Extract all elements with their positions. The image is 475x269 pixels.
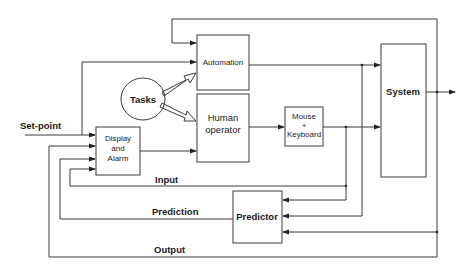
human-operator-block: Human operator xyxy=(197,94,249,162)
mouse-label: Mouse xyxy=(292,112,317,121)
keyboard-label: Keyboard xyxy=(287,130,321,139)
tasks-to-automation-arrow xyxy=(162,73,196,96)
plus-label: + xyxy=(302,121,307,130)
display-alarm-block: Display and Alarm xyxy=(96,127,140,175)
human-operator-label-2: operator xyxy=(205,124,240,135)
input-label: Input xyxy=(155,174,179,185)
automation-label: Automation xyxy=(203,58,243,67)
automation-block: Automation xyxy=(197,35,249,90)
prediction-feedback-line xyxy=(60,159,233,219)
tasks-to-operator-arrow xyxy=(160,103,196,121)
human-operator-label-1: Human xyxy=(208,112,239,123)
output-label: Output xyxy=(154,244,186,255)
mouse-keyboard-block: Mouse + Keyboard xyxy=(285,107,323,146)
control-loop-diagram: Automation Human operator Mouse + Keyboa… xyxy=(0,0,475,269)
system-label: System xyxy=(386,86,420,97)
and-label: and xyxy=(111,144,124,153)
display-label: Display xyxy=(105,134,131,143)
tasks-label: Tasks xyxy=(130,94,156,105)
prediction-label: Prediction xyxy=(152,206,199,217)
predictor-block: Predictor xyxy=(233,191,282,243)
tasks-node: Tasks xyxy=(121,78,165,120)
system-block: System xyxy=(381,44,426,177)
mouse-to-predictor-line xyxy=(283,186,346,200)
predictor-label: Predictor xyxy=(236,211,278,222)
setpoint-label: Set-point xyxy=(20,120,62,131)
alarm-label: Alarm xyxy=(108,154,129,163)
